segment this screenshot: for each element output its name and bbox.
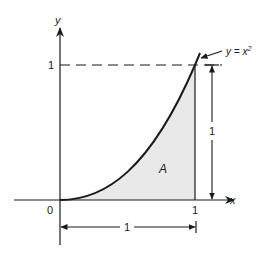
diagram-canvas: y x 0 1 1 A 1 1 y = x2 [0, 0, 262, 259]
horizontal-dimension-label: 1 [124, 221, 130, 233]
vertical-dimension-label: 1 [209, 125, 215, 137]
curve-label-pointer [201, 51, 222, 58]
x-tick-label-1: 1 [192, 204, 198, 216]
x-axis-label: x [229, 194, 236, 206]
diagram-figure: y x 0 1 1 A 1 1 y = x2 [0, 0, 262, 259]
curve-equation-exponent: 2 [246, 45, 251, 52]
curve-equation-label: y = x2 [225, 45, 251, 57]
region-label-a: A [158, 162, 167, 176]
origin-label: 0 [47, 204, 53, 216]
shaded-region-a [60, 65, 195, 200]
curve-equation-base: y = x [225, 46, 248, 57]
y-tick-label-1: 1 [48, 59, 54, 71]
y-axis-label: y [54, 14, 62, 26]
